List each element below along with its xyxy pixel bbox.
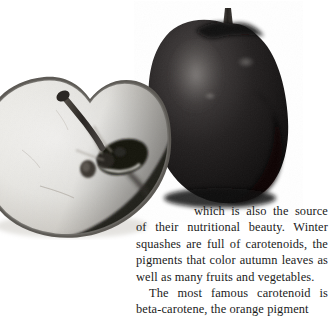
photo-runaround-spacer — [136, 203, 194, 219]
paragraph-two: The most famous carotenoid is beta-carot… — [136, 285, 328, 317]
body-text-column: which is also the source of their nutrit… — [136, 203, 328, 317]
page-canvas: which is also the source of their nutrit… — [0, 0, 335, 317]
paragraph-one: which is also the source of their nutrit… — [136, 203, 328, 285]
